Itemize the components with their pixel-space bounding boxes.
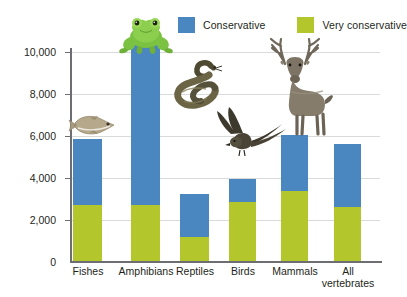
bar-segment-very-conservative (131, 205, 160, 261)
legend-item-conservative: Conservative (178, 17, 265, 33)
x-label-line1: Mammals (272, 265, 318, 277)
plot-area (70, 48, 380, 262)
gridline-10000 (70, 52, 380, 53)
legend-swatch-very-conservative (297, 17, 314, 33)
x-label-reptiles: Reptiles (176, 266, 214, 278)
x-label-line1: All (342, 265, 354, 277)
x-label-mammals: Mammals (272, 266, 318, 278)
legend-label-very-conservative: Very conservative (322, 19, 407, 31)
y-tick-label-10000: 10,000 (24, 46, 56, 58)
x-label-line2: vertebrates (322, 278, 375, 290)
x-label-line1: Amphibians (119, 265, 174, 277)
legend-swatch-conservative (178, 17, 195, 33)
x-label-line1: Reptiles (176, 265, 214, 277)
y-axis-line (70, 48, 72, 262)
y-tick-label-0: 0 (50, 256, 56, 268)
bar-amphibians[interactable] (131, 45, 160, 261)
y-tick-label-4000: 4,000 (30, 172, 56, 184)
y-tick-label-8000: 8,000 (30, 88, 56, 100)
deer-illustration (255, 34, 339, 140)
bar-mammals[interactable] (281, 135, 308, 261)
x-axis-line (70, 261, 382, 263)
snake-illustration (170, 58, 236, 116)
x-label-all-vertebrates: All vertebrates (322, 266, 375, 289)
x-label-fishes: Fishes (73, 266, 104, 278)
bar-segment-very-conservative (334, 207, 361, 261)
bar-segment-conservative (180, 194, 209, 237)
gridline-6000 (70, 136, 380, 137)
bar-segment-conservative (131, 45, 160, 206)
y-axis-labels: Number of years 10,000 8,000 6,000 4,000… (0, 48, 64, 262)
legend-label-conservative: Conservative (203, 19, 265, 31)
legend-item-very-conservative: Very conservative (297, 17, 407, 33)
x-label-amphibians: Amphibians (119, 266, 174, 278)
bar-segment-conservative (73, 139, 102, 205)
bar-fishes[interactable] (73, 139, 102, 261)
bar-segment-very-conservative (281, 191, 308, 261)
bar-segment-very-conservative (180, 237, 209, 261)
bar-birds[interactable] (229, 179, 256, 261)
bar-segment-very-conservative (229, 202, 256, 261)
gridline-8000 (70, 94, 380, 95)
bar-segment-conservative (281, 135, 308, 191)
bar-segment-conservative (334, 144, 361, 207)
x-label-line1: Birds (231, 265, 255, 277)
y-tick-label-2000: 2,000 (30, 214, 56, 226)
y-tick-label-6000: 6,000 (30, 130, 56, 142)
x-label-line1: Fishes (73, 265, 104, 277)
x-axis-labels: Fishes Amphibians Reptiles Birds Mammals… (70, 266, 382, 296)
bar-all-vertebrates[interactable] (334, 144, 361, 261)
bar-segment-conservative (229, 179, 256, 202)
fish-illustration (68, 111, 118, 137)
chart-legend: Conservative Very conservative (178, 17, 407, 33)
bar-reptiles[interactable] (180, 194, 209, 261)
bar-segment-very-conservative (73, 205, 102, 261)
x-label-birds: Birds (231, 266, 255, 278)
